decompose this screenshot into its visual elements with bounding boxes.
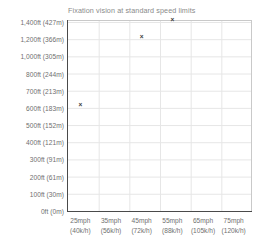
x-axis-tick-label: 45mph(72k/h) — [131, 216, 152, 235]
x-axis-labels: 25mph(40k/h)35mph(56k/h)45mph(72k/h)55mp… — [0, 216, 267, 241]
x-tick-line2: (120k/h) — [222, 226, 246, 236]
y-axis-line — [67, 20, 68, 212]
y-axis-labels: 1,400ft (427m)1,200ft (366m)1,000ft (305… — [0, 0, 64, 241]
chart-container: Fixation vision at standard speed limits… — [0, 0, 267, 241]
x-axis-tick-label: 35mph(56k/h) — [101, 216, 122, 235]
x-axis-tick-label: 55mph(88k/h) — [162, 216, 183, 235]
x-axis-tick-label: 25mph(40k/h) — [70, 216, 91, 235]
y-axis-tick-label: 600ft (183m) — [0, 104, 64, 111]
x-tick-line2: (88k/h) — [162, 226, 183, 236]
y-axis-tick-label: 100ft (30m) — [0, 190, 64, 197]
x-tick-line1: 45mph — [132, 217, 152, 224]
x-axis-tick-label: 75mph(120k/h) — [222, 216, 246, 235]
y-axis-tick-label: 1,000ft (305m) — [0, 53, 64, 60]
x-tick-line1: 55mph — [162, 217, 182, 224]
y-axis-tick-label: 1,400ft (427m) — [0, 19, 64, 26]
y-axis-tick-label: 800ft (244m) — [0, 70, 64, 77]
x-tick-line2: (56k/h) — [101, 226, 122, 236]
y-axis-tick-label: 300ft (91m) — [0, 156, 64, 163]
grid-lines — [68, 20, 252, 211]
x-tick-line1: 65mph — [193, 217, 213, 224]
x-tick-line1: 25mph — [70, 217, 90, 224]
x-axis-tick-label: 65mph(105k/h) — [191, 216, 215, 235]
y-axis-tick-label: 200ft (61m) — [0, 173, 64, 180]
x-tick-line2: (40k/h) — [70, 226, 91, 236]
x-tick-line2: (105k/h) — [191, 226, 215, 236]
y-axis-tick-label: 700ft (213m) — [0, 87, 64, 94]
y-axis-tick-label: 400ft (121m) — [0, 139, 64, 146]
y-axis-tick-label: 500ft (152m) — [0, 122, 64, 129]
plot-area: ××× — [68, 20, 252, 211]
y-axis-tick-label: 1,200ft (366m) — [0, 36, 64, 43]
chart-title: Fixation vision at standard speed limits — [68, 6, 195, 15]
x-tick-line1: 35mph — [101, 217, 121, 224]
x-tick-line1: 75mph — [224, 217, 244, 224]
x-tick-line2: (72k/h) — [131, 226, 152, 236]
y-axis-tick-label: 0ft (0m) — [0, 207, 64, 214]
x-axis-line — [67, 211, 252, 212]
